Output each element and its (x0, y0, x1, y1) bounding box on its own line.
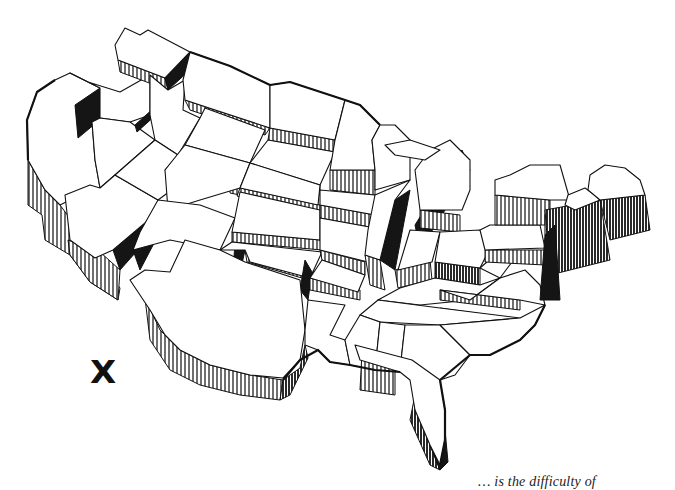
x-marker: X (90, 356, 116, 388)
state-wisconsin (372, 125, 410, 190)
state-pennsylvania (480, 225, 545, 265)
caption-fragment: … is the difficulty of (478, 474, 596, 490)
state-north-dakota (268, 82, 345, 152)
state-louisiana (305, 300, 350, 365)
